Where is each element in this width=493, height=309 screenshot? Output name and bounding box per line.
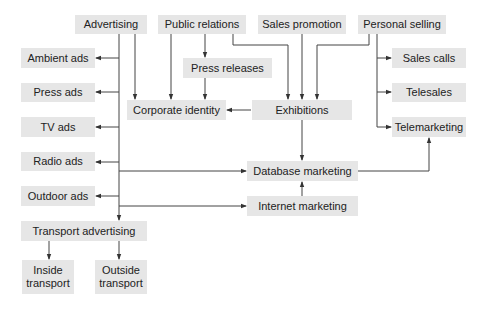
node-outdoor-ads: Outdoor ads (21, 186, 95, 206)
node-personal-selling: Personal selling (358, 15, 446, 34)
node-corporate-identity: Corporate identity (127, 100, 226, 120)
node-outside-transport: Outside transport (95, 260, 147, 294)
node-advertising: Advertising (75, 15, 147, 34)
node-press-releases: Press releases (183, 58, 272, 78)
node-database-marketing: Database marketing (247, 161, 358, 181)
node-inside-transport: Inside transport (22, 260, 74, 294)
node-press-ads: Press ads (21, 83, 95, 102)
node-radio-ads: Radio ads (21, 152, 95, 171)
node-transport-advertising: Transport advertising (21, 221, 147, 241)
node-tv-ads: TV ads (21, 117, 95, 137)
node-ambient-ads: Ambient ads (21, 48, 95, 68)
node-sales-promotion: Sales promotion (258, 15, 346, 34)
node-sales-calls: Sales calls (392, 48, 466, 68)
node-telemarketing: Telemarketing (392, 117, 466, 137)
node-exhibitions: Exhibitions (252, 100, 352, 120)
node-public-relations: Public relations (158, 15, 246, 34)
node-internet-marketing: Internet marketing (247, 196, 358, 216)
node-telesales: Telesales (392, 83, 466, 102)
